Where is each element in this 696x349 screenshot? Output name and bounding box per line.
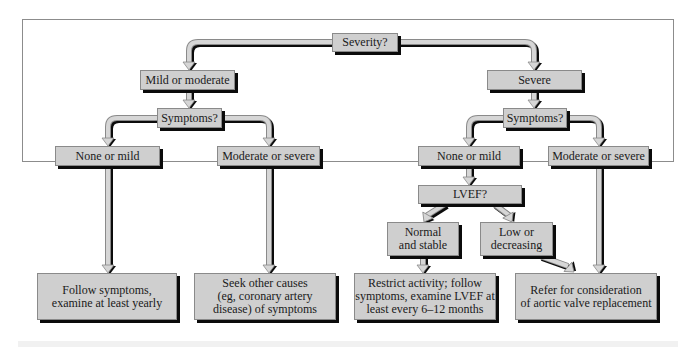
node-restrict-activity: Restrict activity; follow symptoms, exam… <box>354 273 496 320</box>
node-seek-other-causes: Seek other causes (eg, coronary artery d… <box>194 273 336 320</box>
node-refer-avr-label: Refer for consideration of aortic valve … <box>521 284 652 310</box>
node-left-mod-severe: Moderate or severe <box>217 146 320 166</box>
node-seek-other-causes-label: Seek other causes (eg, coronary artery d… <box>213 277 317 316</box>
node-left-none-mild-label: None or mild <box>76 150 140 163</box>
node-severity-label: Severity? <box>342 36 387 49</box>
node-follow-symptoms: Follow symptoms, examine at least yearly <box>37 273 177 320</box>
arrow-mod-to-seek <box>269 166 271 267</box>
node-symptoms-right-label: Symptoms? <box>507 112 564 125</box>
arrow-severity-to-mild <box>189 42 334 64</box>
node-lvef-label: LVEF? <box>453 188 487 201</box>
node-mild-moderate-label: Mild or moderate <box>146 74 230 87</box>
node-restrict-activity-label: Restrict activity; follow symptoms, exam… <box>355 277 495 316</box>
node-left-none-mild: None or mild <box>55 146 160 166</box>
arrow-none-to-follow <box>108 166 110 267</box>
arrow-symptoms-left-to-none <box>108 118 159 140</box>
arrow-symptoms-left-to-mod <box>222 118 271 140</box>
node-right-none-mild-label: None or mild <box>437 150 501 163</box>
node-right-none-mild: None or mild <box>418 146 520 166</box>
node-severity: Severity? <box>332 33 398 52</box>
arrow-symptoms-right-to-mod <box>567 118 601 140</box>
arrow-low-to-refer <box>540 256 570 268</box>
node-follow-symptoms-label: Follow symptoms, examine at least yearly <box>52 284 162 310</box>
node-mild-moderate: Mild or moderate <box>140 70 235 90</box>
node-symptoms-left: Symptoms? <box>157 108 222 128</box>
arrow-symptoms-right-to-none <box>469 118 505 140</box>
node-right-mod-severe: Moderate or severe <box>548 146 649 166</box>
arrow-mod-to-refer <box>599 166 601 267</box>
node-low-decreasing-label: Low or decreasing <box>491 226 542 252</box>
node-normal-stable-label: Normal and stable <box>399 226 447 252</box>
node-severe: Severe <box>487 70 582 90</box>
node-right-mod-severe-label: Moderate or severe <box>552 150 645 163</box>
node-left-mod-severe-label: Moderate or severe <box>222 150 315 163</box>
node-lvef: LVEF? <box>418 185 522 204</box>
arrow-severity-to-severe <box>398 42 536 64</box>
node-normal-stable: Normal and stable <box>387 222 459 256</box>
node-refer-avr: Refer for consideration of aortic valve … <box>515 273 657 320</box>
node-symptoms-right: Symptoms? <box>503 108 567 128</box>
node-severe-label: Severe <box>518 74 551 87</box>
node-low-decreasing: Low or decreasing <box>480 222 553 256</box>
node-symptoms-left-label: Symptoms? <box>161 112 218 125</box>
